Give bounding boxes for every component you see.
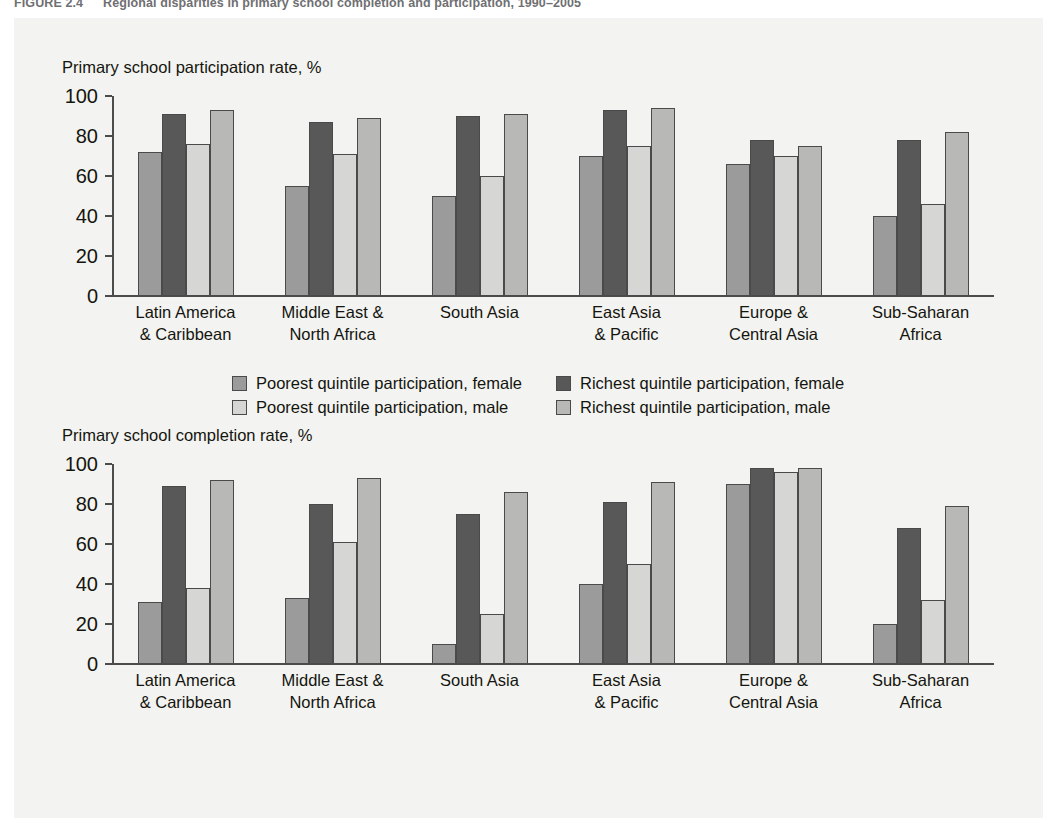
bar [285,186,309,296]
category-label: Sub-SaharanAfrica [847,670,994,714]
bar [627,146,651,296]
category-label-line [406,692,553,714]
bar [921,204,945,296]
bar-group [259,464,406,664]
bar [627,564,651,664]
category-label-line: Latin America [112,670,259,692]
category-label-line: & Pacific [553,692,700,714]
bar-group [847,96,994,296]
bar [726,484,750,664]
bar [186,144,210,296]
legend-item: Richest quintile participation, female [556,374,844,393]
y-tick [105,543,112,545]
bar-group [112,96,259,296]
bar-groups [112,464,994,664]
y-tick-label: 20 [76,245,98,268]
bar-group [112,464,259,664]
category-label-line: Europe & [700,670,847,692]
category-label-line: Sub-Saharan [847,302,994,324]
bar [726,164,750,296]
bar [138,602,162,664]
bar-groups [112,96,994,296]
category-label-line: Europe & [700,302,847,324]
y-tick-label: 80 [76,493,98,516]
bars [873,464,969,664]
bar [579,584,603,664]
bar-group [553,96,700,296]
y-tick-label: 0 [87,285,98,308]
bar [432,644,456,664]
bar [504,114,528,296]
category-label-line: Africa [847,324,994,346]
bar-group [553,464,700,664]
bars [432,464,528,664]
category-label-line: & Pacific [553,324,700,346]
chart-title: Primary school completion rate, % [62,426,312,445]
bar [309,122,333,296]
y-tick [105,463,112,465]
bar-group [259,96,406,296]
bar-group [700,464,847,664]
category-label: South Asia [406,302,553,346]
bars [285,464,381,664]
bars [285,96,381,296]
bar [873,624,897,664]
y-tick [105,215,112,217]
category-label-line: Sub-Saharan [847,670,994,692]
plot-area: 020406080100 [112,96,994,296]
bar [333,154,357,296]
y-tick [105,583,112,585]
bar [162,486,186,664]
bar-group [406,464,553,664]
y-tick-label: 60 [76,533,98,556]
y-tick-label: 60 [76,165,98,188]
bar [921,600,945,664]
bars [138,464,234,664]
bar [603,502,627,664]
bar-group [406,96,553,296]
category-label: Europe &Central Asia [700,302,847,346]
bar [579,156,603,296]
bar [162,114,186,296]
category-label-line: North Africa [259,324,406,346]
bars [579,464,675,664]
bar [357,478,381,664]
chart-completion: Primary school completion rate, % 020406… [14,412,1043,818]
y-tick-label: 20 [76,613,98,636]
y-tick-label: 0 [87,653,98,676]
figure-number: FIGURE 2.4 [14,0,83,10]
category-label-line: South Asia [406,670,553,692]
chart-panel: Primary school participation rate, % 020… [14,18,1043,818]
bar [945,506,969,664]
bar [750,140,774,296]
figure-caption-text: Regional disparities in primary school c… [103,0,581,10]
bar [138,152,162,296]
bar [798,468,822,664]
y-tick [105,503,112,505]
legend-label: Richest quintile participation, female [580,374,844,393]
y-tick-label: 40 [76,573,98,596]
figure-root: FIGURE 2.4Regional disparities in primar… [0,0,1057,825]
category-label: Latin America& Caribbean [112,670,259,714]
bar [480,614,504,664]
y-tick [105,95,112,97]
y-tick-label: 100 [65,85,98,108]
legend-swatch-icon [232,376,247,391]
bar-group [700,96,847,296]
category-label: Latin America& Caribbean [112,302,259,346]
legend-swatch-icon [556,376,571,391]
bar [603,110,627,296]
bar [873,216,897,296]
y-tick-label: 40 [76,205,98,228]
y-tick [105,135,112,137]
y-tick [105,663,112,665]
chart-legend: Poorest quintile participation, femaleRi… [232,374,844,417]
category-label-line: South Asia [406,302,553,324]
legend-label: Poorest quintile participation, female [256,374,522,393]
bar [432,196,456,296]
bar [480,176,504,296]
category-label-line: & Caribbean [112,324,259,346]
bars [432,96,528,296]
bars [579,96,675,296]
y-tick [105,623,112,625]
